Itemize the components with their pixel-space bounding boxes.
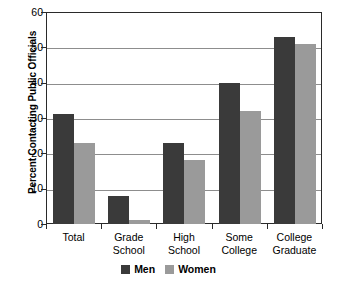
bar-women — [240, 111, 261, 224]
x-tick-label-line: Graduate — [252, 244, 336, 257]
bar-men — [274, 37, 295, 224]
legend-swatch-icon — [165, 265, 174, 274]
bar-women — [295, 44, 316, 224]
bar-men — [163, 143, 184, 224]
bar-men — [53, 114, 74, 224]
bar-group — [101, 12, 156, 224]
x-tick-mark — [212, 224, 213, 229]
bar-women — [184, 160, 205, 224]
bar-women — [74, 143, 95, 224]
bar-group — [212, 12, 267, 224]
y-tick-label: 30 — [3, 113, 43, 124]
x-tick-mark — [46, 224, 47, 229]
x-tick-mark — [322, 224, 323, 229]
x-tick-label-line: College — [252, 231, 336, 244]
bars-layer — [46, 12, 322, 224]
y-tick-label: 40 — [3, 77, 43, 88]
legend-entry: Men — [121, 264, 155, 275]
x-tick-label: CollegeGraduate — [252, 231, 336, 256]
x-tick-mark — [101, 224, 102, 229]
x-tick-mark — [156, 224, 157, 229]
y-tick-label: 50 — [3, 42, 43, 53]
bar-women — [129, 220, 150, 224]
bar-group — [46, 12, 101, 224]
bar-group — [156, 12, 211, 224]
bar-group — [267, 12, 322, 224]
legend-entry: Women — [165, 264, 216, 275]
y-tick-label: 10 — [3, 183, 43, 194]
legend-label: Women — [178, 264, 216, 275]
x-tick-mark — [267, 224, 268, 229]
y-tick-label: 20 — [3, 148, 43, 159]
legend-label: Men — [134, 264, 155, 275]
chart-legend: MenWomen — [0, 264, 337, 275]
bar-chart: Percent Contacting Public Officials 0102… — [0, 0, 337, 288]
bar-men — [108, 196, 129, 224]
legend-swatch-icon — [121, 265, 130, 274]
y-tick-label: 0 — [3, 219, 43, 230]
bar-men — [219, 83, 240, 224]
y-tick-label: 60 — [3, 7, 43, 18]
